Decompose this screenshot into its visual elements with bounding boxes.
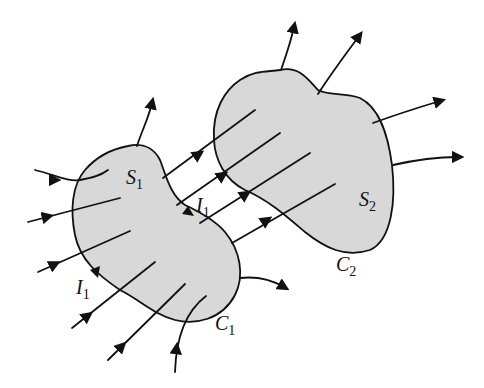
label-c1: C1 xyxy=(215,312,235,338)
region-s1 xyxy=(72,145,240,322)
flux-diagram: S1 S2 C1 C2 I1 I1 xyxy=(0,0,484,388)
label-c2: C2 xyxy=(336,253,356,279)
label-i1-left: I1 xyxy=(75,276,90,302)
